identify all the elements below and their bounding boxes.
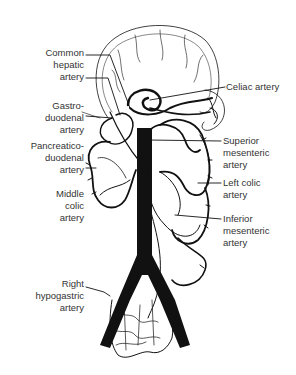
label-celiac-artery: Celiac artery [226, 81, 279, 93]
celiac-knot [128, 90, 160, 110]
label-gastroduodenal-artery: Gastro- duodenal artery [14, 100, 84, 136]
label-common-hepatic-artery: Common hepatic artery [14, 47, 84, 83]
label-superior-mesenteric-artery: Superior mesenteric artery [223, 135, 269, 171]
label-inferior-mesenteric-artery: Inferior mesenteric artery [223, 213, 269, 249]
left-colon-loop [160, 120, 209, 195]
leader-right-hypogastric [86, 287, 110, 296]
label-pancreaticoduodenal-artery: Pancreatico- duodenal artery [4, 140, 84, 176]
stomach-outline [96, 25, 219, 118]
label-middle-colic-artery: Middle colic artery [14, 188, 84, 224]
leader-superior-mesenteric [148, 140, 221, 141]
label-left-colic-artery: Left colic artery [223, 177, 261, 201]
label-right-hypogastric-artery: Right hypogastric artery [14, 278, 84, 314]
duodenum-outline [100, 113, 133, 144]
right-colon-loop [89, 142, 136, 208]
leader-inferior-mesenteric [175, 215, 221, 219]
leader-common-hepatic [86, 55, 130, 108]
leader-celiac [150, 87, 225, 100]
